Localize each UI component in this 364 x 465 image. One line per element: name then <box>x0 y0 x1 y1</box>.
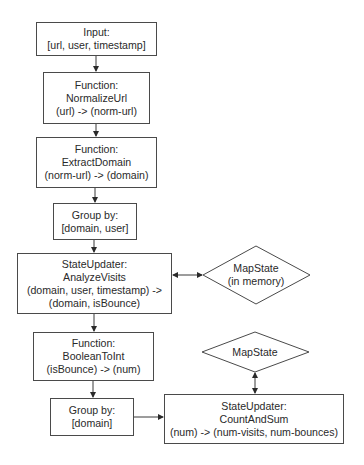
input-node-line-1: Input: <box>83 26 110 39</box>
group-domain-node: Group by: [domain] <box>50 398 134 436</box>
analyze-visits-line-1: StateUpdater: <box>62 258 127 271</box>
group-domain-line-1: Group by: <box>69 404 116 417</box>
normalize-url-line-2: NormalizeUrl <box>66 92 127 105</box>
boolean-to-int-line-2: BooleanToInt <box>63 350 125 363</box>
group-domain-line-2: [domain] <box>72 417 113 430</box>
extract-domain-node: Function: ExtractDomain (norm-url) -> (d… <box>36 137 157 188</box>
boolean-to-int-line-3: (isBounce) -> (num) <box>47 363 141 376</box>
count-and-sum-line-2: CountAndSum <box>220 413 289 426</box>
extract-domain-line-3: (norm-url) -> (domain) <box>45 169 149 182</box>
normalize-url-line-1: Function: <box>75 79 119 92</box>
boolean-to-int-node: Function: BooleanToInt (isBounce) -> (nu… <box>33 332 154 381</box>
group-domain-user-line-1: Group by: <box>72 209 119 222</box>
input-node: Input: [url, user, timestamp] <box>36 22 157 56</box>
group-domain-user-line-2: [domain, user] <box>61 222 128 235</box>
analyze-visits-line-2: AnalyzeVisits <box>63 271 126 284</box>
analyze-visits-line-3: (domain, user, timestamp) -> <box>27 284 162 297</box>
extract-domain-line-2: ExtractDomain <box>62 156 131 169</box>
normalize-url-node: Function: NormalizeUrl (url) -> (norm-ur… <box>43 72 150 124</box>
count-and-sum-line-1: StateUpdater: <box>221 400 286 413</box>
boolean-to-int-line-1: Function: <box>72 337 116 350</box>
extract-domain-line-1: Function: <box>75 143 119 156</box>
dataflow-diagram: Input: [url, user, timestamp] Function: … <box>0 0 364 465</box>
count-and-sum-node: StateUpdater: CountAndSum (num) -> (num-… <box>164 394 344 444</box>
normalize-url-line-3: (url) -> (norm-url) <box>56 105 137 118</box>
mapstate-label: MapState <box>212 344 298 360</box>
analyze-visits-node: StateUpdater: AnalyzeVisits (domain, use… <box>17 253 172 314</box>
mapstate-line-1: MapState <box>232 346 277 359</box>
count-and-sum-line-3: (num) -> (num-visits, num-bounces) <box>170 426 338 439</box>
analyze-visits-line-4: (domain, isBounce) <box>49 297 140 310</box>
input-node-line-2: [url, user, timestamp] <box>47 39 145 52</box>
mapstate-memory-label: MapState (in memory) <box>213 260 299 290</box>
mapstate-memory-line-2: (in memory) <box>228 275 285 288</box>
group-domain-user-node: Group by: [domain, user] <box>53 203 137 240</box>
mapstate-memory-line-1: MapState <box>233 262 278 275</box>
